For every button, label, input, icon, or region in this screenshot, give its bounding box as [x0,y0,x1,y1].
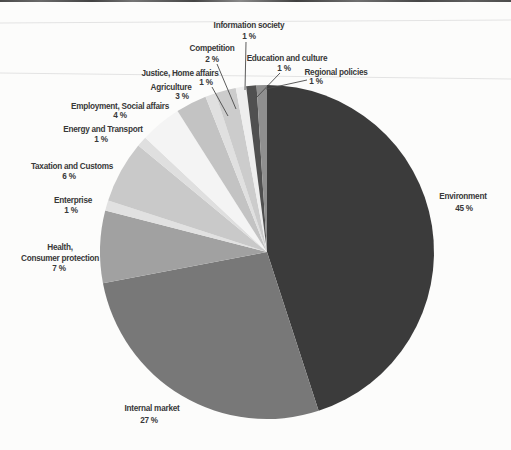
slice-label-education-and-culture-line2: 1 % [277,64,291,73]
slice-label-competition-line2: 2 % [205,55,219,64]
slice-label-environment: Environment [439,192,487,201]
pie-chart: Environment45 %Internal market27 %Health… [0,0,511,450]
slice-label-employment-social-affairs-line2: 4 % [113,111,127,120]
slice-label-internal-market-line2: 27 % [140,416,159,425]
slice-label-taxation-and-customs-line2: 6 % [62,172,76,181]
slice-label-education-and-culture: Education and culture [247,54,328,63]
slice-label-health-consumer-protection-line2: Consumer protection [21,254,99,263]
slice-label-employment-social-affairs: Employment, Social affairs [71,102,170,111]
slice-label-justice-home-affairs: Justice, Home affairs [141,69,219,78]
slice-label-health-consumer-protection: Health, [47,243,73,252]
slice-label-enterprise-line2: 1 % [64,206,78,215]
leader-line-information-society [245,42,246,90]
slice-label-justice-home-affairs-line2: 1 % [199,78,213,87]
slice-label-enterprise: Enterprise [54,196,93,205]
slice-label-regional-policies: Regional policies [304,68,368,77]
slice-label-internal-market: Internal market [125,404,180,413]
slice-label-agriculture-line2: 3 % [175,92,189,101]
slice-label-health-consumer-protection-line3: 7 % [52,264,66,273]
slice-label-environment-line2: 45 % [455,204,474,213]
slice-label-information-society-line2: 1 % [242,32,256,41]
scan-line-artifact-2 [0,73,511,79]
slice-label-energy-and-transport: Energy and Transport [63,125,143,134]
slice-label-competition: Competition [189,44,234,53]
slice-label-agriculture: Agriculture [151,83,193,92]
slice-label-energy-and-transport-line2: 1 % [94,135,108,144]
scanned-chart-page: Environment45 %Internal market27 %Health… [0,0,511,450]
slice-label-information-society: Information society [214,21,285,30]
slice-label-taxation-and-customs: Taxation and Customs [31,162,114,171]
slice-label-regional-policies-line2: 1 % [309,77,323,86]
